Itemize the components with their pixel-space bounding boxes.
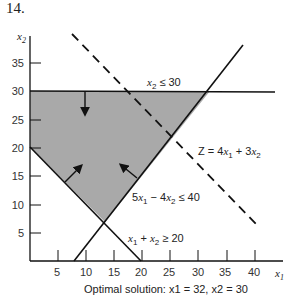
svg-text:30: 30 — [12, 85, 24, 97]
svg-text:25: 25 — [12, 114, 24, 126]
x-axis-label: x1 — [274, 267, 284, 282]
svg-text:35: 35 — [219, 266, 231, 278]
optimal-solution-caption: Optimal solution: x1 = 32, x2 = 30 — [84, 283, 248, 295]
svg-text:15: 15 — [12, 170, 24, 182]
svg-text:5: 5 — [54, 266, 60, 278]
label-x1-plus-x2-ge-20: x1 + x2 ≥ 20 — [127, 232, 184, 247]
label-5x1-4x2-le-40: 5x1 − 4x2 ≤ 40 — [132, 191, 200, 206]
svg-text:40: 40 — [248, 266, 260, 278]
svg-text:35: 35 — [12, 57, 24, 69]
svg-text:25: 25 — [163, 266, 175, 278]
svg-text:20: 20 — [135, 266, 147, 278]
svg-text:30: 30 — [192, 266, 204, 278]
label-objective: Z = 4x1 + 3x2 — [198, 145, 261, 160]
label-x2-le-30: x2 ≤ 30 — [146, 76, 181, 91]
x-tick-labels: 5 10 15 20 25 30 35 40 — [54, 266, 260, 278]
svg-text:10: 10 — [80, 266, 92, 278]
y-tick-labels: 5 10 15 20 25 30 35 — [12, 57, 24, 239]
x-ticks — [58, 250, 255, 261]
y-axis-label: x2 — [16, 30, 26, 45]
svg-text:20: 20 — [12, 142, 24, 154]
lp-graph: 5 10 15 20 25 30 35 5 10 15 20 25 30 35 … — [0, 0, 293, 301]
constraint-line-x2-30 — [30, 91, 275, 92]
svg-text:5: 5 — [18, 227, 24, 239]
svg-text:15: 15 — [108, 266, 120, 278]
svg-text:10: 10 — [12, 199, 24, 211]
